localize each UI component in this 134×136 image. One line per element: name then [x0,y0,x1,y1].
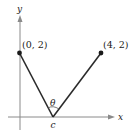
diagram-canvas: y x θ (0, 2) (4, 2) c [0,0,134,136]
y-axis [18,15,23,130]
point-4-2 [99,51,104,56]
x-axis-arrow-icon [108,115,115,120]
point-label-0-2: (0, 2) [22,39,48,50]
x-axis-label: x [118,112,123,122]
point-label-4-2: (4, 2) [103,39,129,50]
angle-theta-label: θ [50,98,56,108]
x-axis [8,115,115,120]
vertex-c-label: c [51,120,56,130]
right-segment [53,53,101,117]
y-axis-label: y [16,4,23,14]
point-0-2 [17,51,22,56]
left-segment [20,53,54,117]
y-axis-arrow-icon [18,15,23,22]
